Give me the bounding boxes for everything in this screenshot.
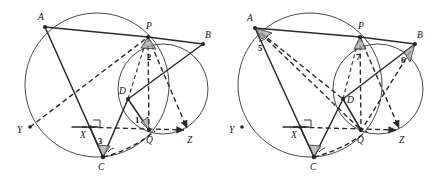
left-vertex-x <box>88 125 92 129</box>
left-dashed-yp <box>30 37 148 127</box>
left-label-d: D <box>118 86 126 96</box>
right-vertex-y <box>240 125 244 129</box>
right-vertex-x <box>298 125 302 129</box>
right-label-z: Z <box>399 135 405 145</box>
left-figure: A P B D X Y Q Z C 1 2 3 <box>17 12 211 172</box>
left-label-z: Z <box>187 135 193 145</box>
right-label-b: B <box>417 30 423 40</box>
left-label-c: C <box>98 162 105 172</box>
left-right-angle-x <box>93 120 100 127</box>
left-label-y: Y <box>17 125 24 135</box>
left-dashed-pz <box>148 37 187 128</box>
left-arc-c <box>108 148 114 152</box>
left-segment-ap <box>45 27 148 37</box>
right-vertex-c <box>312 155 316 159</box>
right-vertex-d <box>341 97 345 101</box>
left-label-b: B <box>205 30 211 40</box>
right-vertex-a <box>253 26 257 30</box>
left-angle-2: 2 <box>147 52 151 62</box>
geometry-figure: A P B D X Y Q Z C 1 2 3 <box>0 0 443 178</box>
left-angle-1: 1 <box>135 115 139 125</box>
right-arc-c <box>319 148 325 152</box>
left-vertex-d <box>126 97 130 101</box>
right-vertex-b <box>413 42 417 46</box>
right-vertex-q <box>359 128 363 132</box>
left-segment-pb <box>148 37 203 44</box>
right-right-angle-x <box>304 120 311 127</box>
right-angle-6: 6 <box>401 55 405 65</box>
left-label-x: X <box>79 130 87 140</box>
right-figure: A P B D X Y Q Z C 5 6 7 <box>229 13 423 172</box>
right-vertex-p <box>358 35 362 39</box>
left-vertex-q <box>147 128 151 132</box>
right-dashed-ad <box>255 28 343 99</box>
left-segment-bd <box>128 44 203 99</box>
right-dashed-pq <box>360 37 361 130</box>
left-label-a: A <box>37 12 44 22</box>
right-label-a: A <box>246 13 253 23</box>
right-label-x: X <box>290 130 298 140</box>
left-vertex-y <box>28 125 32 129</box>
left-angle-3: 3 <box>98 136 102 146</box>
left-vertex-b <box>201 42 205 46</box>
right-label-p: P <box>357 21 364 31</box>
right-label-q: Q <box>357 135 364 145</box>
figure-canvas: A P B D X Y Q Z C 1 2 3 <box>0 0 443 178</box>
right-dashed-dp <box>343 41 358 99</box>
left-vertex-p <box>146 35 150 39</box>
right-angle-5: 5 <box>258 43 262 53</box>
right-label-y: Y <box>229 125 236 135</box>
right-label-d: D <box>346 95 354 105</box>
right-label-c: C <box>310 162 317 172</box>
right-dashed-pz <box>360 37 399 128</box>
left-vertex-a <box>43 25 47 29</box>
left-label-p: P <box>145 21 152 31</box>
left-label-q: Q <box>146 135 153 145</box>
left-vertex-c <box>101 155 105 159</box>
right-dashed-aq <box>255 28 361 130</box>
